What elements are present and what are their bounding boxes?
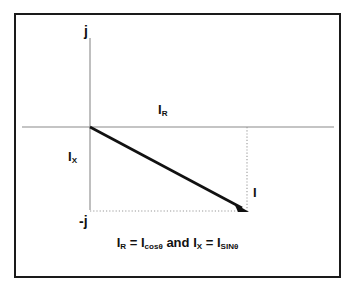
caption-left-lhs-subscript: R (120, 242, 126, 251)
label-total-current: I (253, 186, 257, 199)
diagram-caption: IR = Icosθ and IX = ISINθ (14, 236, 341, 250)
phasor-diagram-figure: j -j IR IX I IR = Icosθ and IX = ISINθ (0, 0, 356, 294)
caption-left-rhs-subscript: cosθ (145, 242, 163, 251)
label-resistive-current: IR (158, 103, 167, 116)
caption-right-equation: IX = ISINθ (193, 235, 238, 250)
caption-left-rhs-symbol: I (141, 235, 145, 250)
label-reactive-subscript: X (72, 156, 77, 165)
caption-right-equals: = (206, 235, 214, 250)
label-reactive-current: IX (68, 150, 77, 163)
axis-label-positive-j: j (84, 24, 88, 38)
caption-right-lhs-subscript: X (197, 242, 202, 251)
caption-left-equals: = (130, 235, 138, 250)
caption-right-rhs-subscript: SINθ (221, 242, 239, 251)
caption-left-equation: IR = Icosθ (117, 235, 163, 250)
label-resistive-subscript: R (162, 109, 168, 118)
caption-conjunction: and (166, 235, 189, 250)
axis-label-negative-j: -j (79, 214, 88, 228)
